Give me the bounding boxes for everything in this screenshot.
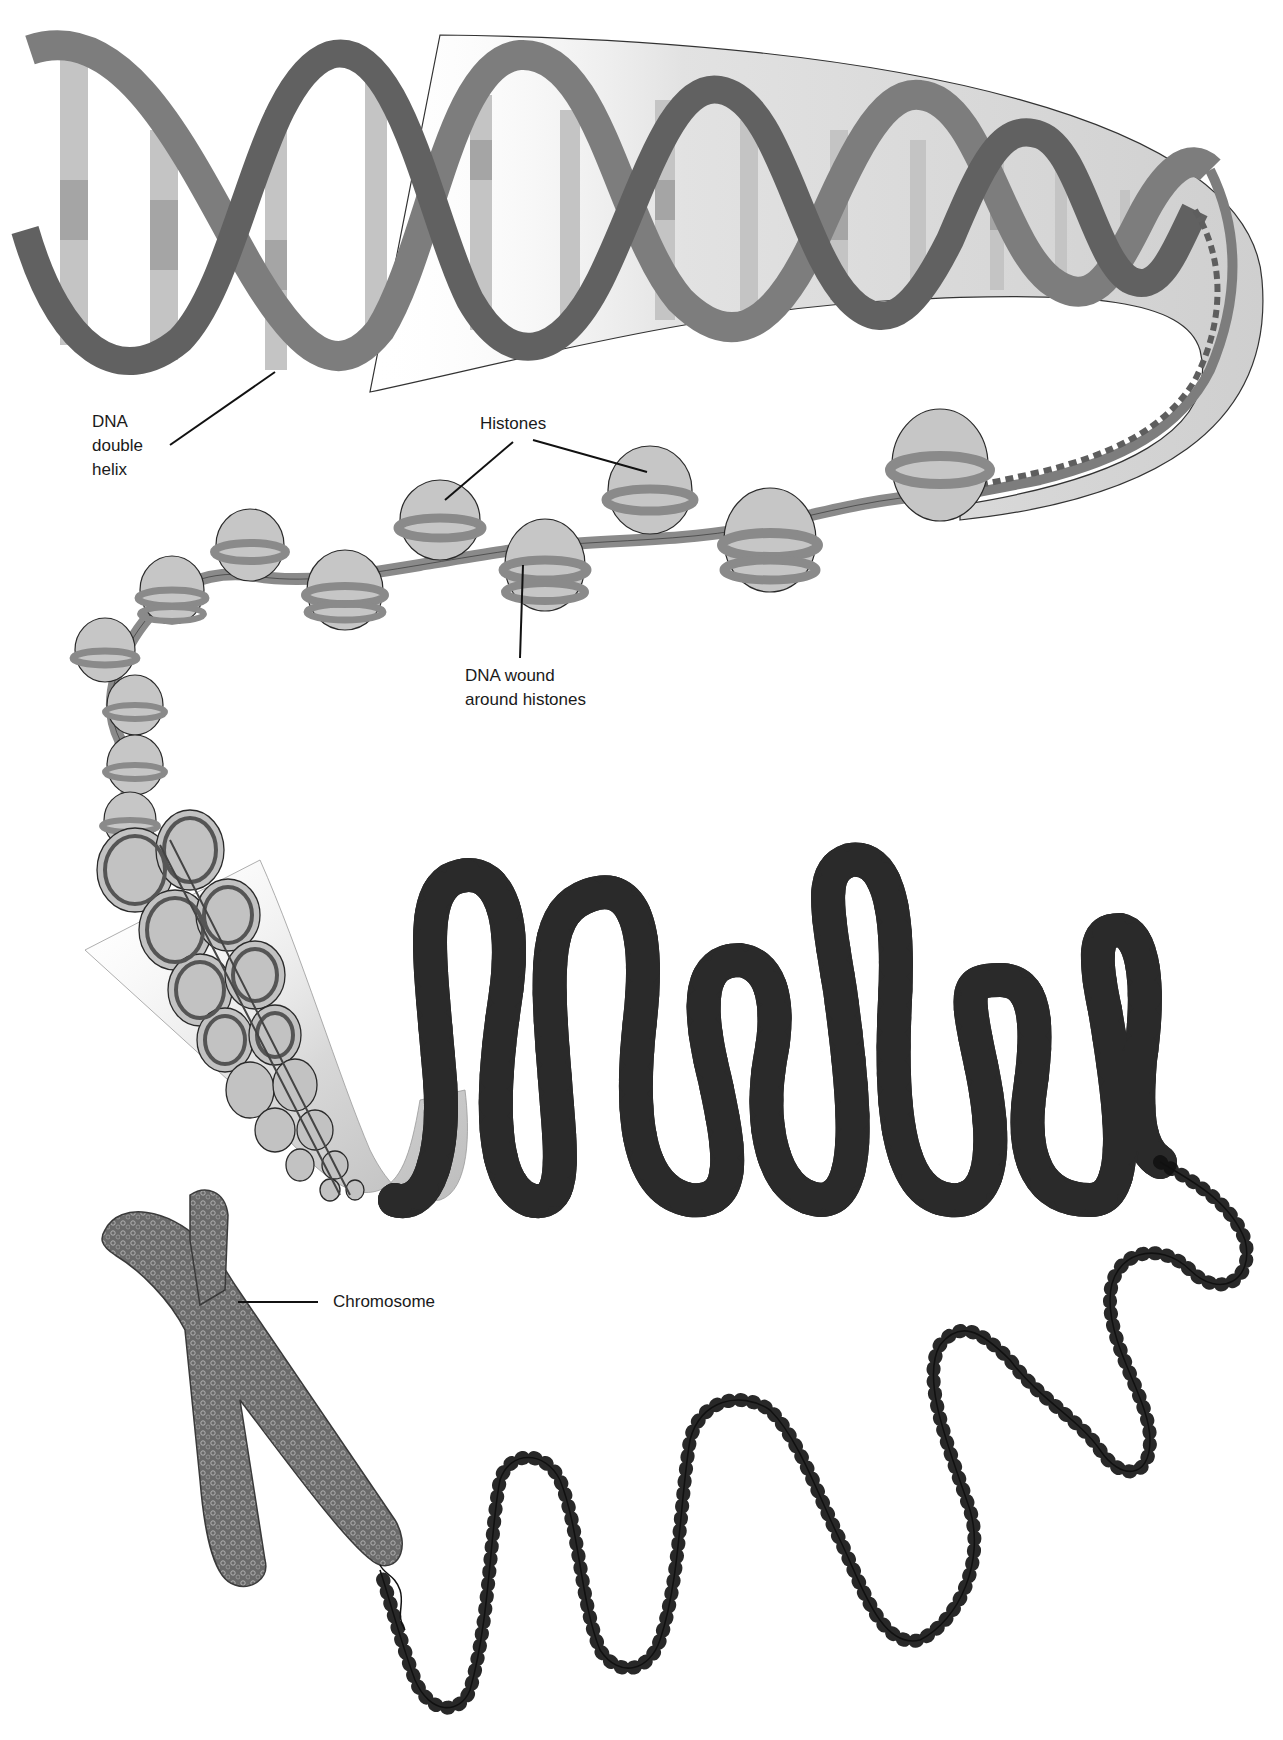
label-histones: Histones — [480, 412, 546, 436]
label-chromosome: Chromosome — [333, 1290, 435, 1314]
chromosome — [102, 1190, 405, 1630]
histone-4 — [503, 519, 587, 611]
histone-2 — [722, 488, 818, 592]
histone-3 — [606, 446, 694, 534]
leader-dna-double-helix — [170, 372, 275, 445]
histone-1 — [890, 409, 990, 521]
diagram-canvas — [0, 0, 1283, 1740]
histone-6 — [305, 550, 385, 630]
histone-5 — [398, 480, 482, 560]
label-dna-double-helix: DNA double helix — [92, 410, 143, 482]
leader-histones-left — [445, 442, 513, 500]
histone-11 — [105, 735, 165, 795]
label-dna-wound-around-histones: DNA wound around histones — [465, 664, 586, 712]
nucleosome-chain — [73, 409, 990, 860]
dna-packaging-diagram: DNA double helix Histones DNA wound arou… — [0, 0, 1283, 1740]
histone-9 — [73, 618, 137, 682]
looped-chromatin-fiber — [395, 860, 1160, 1201]
coiled-chromatin-fiber — [380, 1162, 1247, 1708]
